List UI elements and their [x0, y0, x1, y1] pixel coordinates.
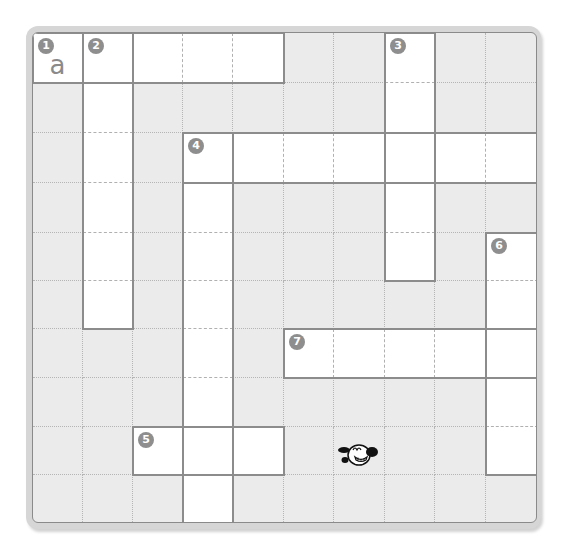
grid-cell-input[interactable] — [83, 133, 133, 183]
grid-cell-block — [284, 427, 334, 475]
grid-cell-block — [284, 83, 334, 133]
clue-number-badge: 2 — [88, 38, 104, 54]
grid-cell-input[interactable] — [486, 281, 537, 329]
grid-cell-input[interactable] — [385, 133, 435, 183]
grid-cell-block — [133, 378, 183, 427]
grid-cell-block — [33, 329, 83, 378]
grid-cell-input[interactable]: 4 — [183, 133, 233, 183]
grid-cell-block — [83, 427, 133, 475]
grid-cell-input[interactable] — [183, 281, 233, 329]
grid-cell-block — [334, 378, 385, 427]
grid-cell-block — [133, 281, 183, 329]
grid-cell-block — [435, 233, 486, 281]
grid-cell-input[interactable]: 3 — [385, 33, 435, 83]
grid-cell-input[interactable]: 2 — [83, 33, 133, 83]
grid-cell-input[interactable] — [183, 378, 233, 427]
grid-cell-block — [233, 183, 284, 233]
grid-cell-input[interactable] — [486, 133, 537, 183]
grid-cell-input[interactable] — [83, 281, 133, 329]
grid-cell-block — [334, 475, 385, 523]
grid-cell-block — [435, 475, 486, 523]
grid-cell-input[interactable] — [486, 427, 537, 475]
grid-cell-input[interactable] — [486, 378, 537, 427]
grid-cell-input[interactable]: 5 — [133, 427, 183, 475]
grid-cell-block — [486, 475, 537, 523]
clue-number-badge: 5 — [138, 432, 154, 448]
grid-cell-block — [233, 83, 284, 133]
grid-cell-block — [385, 281, 435, 329]
grid-cell-block — [284, 183, 334, 233]
grid-cell-block — [284, 233, 334, 281]
grid-cell-block — [385, 475, 435, 523]
grid-cell-block — [133, 133, 183, 183]
grid-cell-input[interactable] — [133, 33, 183, 83]
grid-cell-block — [435, 378, 486, 427]
grid-cell-block — [233, 233, 284, 281]
grid-cell-block — [33, 183, 83, 233]
grid-cell-block — [334, 33, 385, 83]
crossword-grid: 1a234675 — [32, 32, 537, 523]
grid-cell-block — [334, 233, 385, 281]
grid-cell-input[interactable] — [435, 133, 486, 183]
grid-cell-block — [133, 475, 183, 523]
grid-cell-input[interactable] — [385, 183, 435, 233]
grid-cell-input[interactable]: 6 — [486, 233, 537, 281]
grid-cell-block — [435, 183, 486, 233]
grid-cell-block — [83, 475, 133, 523]
grid-cell-input[interactable] — [334, 133, 385, 183]
grid-cell-input[interactable] — [183, 183, 233, 233]
grid-cell-block — [233, 329, 284, 378]
grid-cell-input[interactable] — [183, 33, 233, 83]
grid-cell-block — [33, 427, 83, 475]
clue-number-badge: 7 — [289, 334, 305, 350]
grid-cell-input[interactable] — [83, 233, 133, 281]
grid-cell-block — [334, 183, 385, 233]
grid-cell-block — [83, 378, 133, 427]
grid-cell-block — [33, 475, 83, 523]
grid-cell-input[interactable] — [183, 427, 233, 475]
grid-cell-block — [233, 281, 284, 329]
grid-cell-block — [284, 475, 334, 523]
grid-cell-block — [133, 183, 183, 233]
grid-cell-block — [486, 183, 537, 233]
grid-cell-input[interactable] — [183, 475, 233, 523]
grid-cell-block — [33, 233, 83, 281]
entered-letter: a — [33, 50, 82, 80]
grid-cell-input[interactable] — [385, 329, 435, 378]
grid-cell-block — [284, 281, 334, 329]
grid-cell-block — [334, 83, 385, 133]
grid-cell-input[interactable] — [385, 233, 435, 281]
grid-cell-block — [435, 281, 486, 329]
grid-cell-block — [33, 281, 83, 329]
grid-cell-block — [83, 329, 133, 378]
grid-cell-block — [486, 83, 537, 133]
grid-cell-input[interactable]: 1a — [33, 33, 83, 83]
grid-cell-block — [133, 83, 183, 133]
grid-cell-input[interactable] — [486, 329, 537, 378]
grid-cell-block — [183, 83, 233, 133]
grid-cell-block — [435, 83, 486, 133]
grid-cell-block — [233, 378, 284, 427]
grid-cell-input[interactable] — [334, 329, 385, 378]
grid-cell-input[interactable] — [183, 233, 233, 281]
grid-cell-block — [33, 133, 83, 183]
grid-cell-input[interactable] — [284, 133, 334, 183]
grid-cell-block — [334, 281, 385, 329]
grid-cell-input[interactable]: 7 — [284, 329, 334, 378]
grid-cell-input[interactable] — [183, 329, 233, 378]
grid-cell-input[interactable] — [385, 83, 435, 133]
grid-cell-block — [385, 378, 435, 427]
grid-cell-input[interactable] — [233, 33, 284, 83]
clue-number-badge: 3 — [390, 38, 406, 54]
grid-cell-input[interactable] — [435, 329, 486, 378]
clue-number-badge: 6 — [491, 238, 507, 254]
grid-cell-block — [284, 378, 334, 427]
grid-cell-block — [233, 475, 284, 523]
grid-cell-input[interactable] — [83, 83, 133, 133]
grid-cell-input[interactable] — [83, 183, 133, 233]
grid-cell-input[interactable] — [233, 133, 284, 183]
cartoon-dog-icon — [337, 440, 381, 470]
grid-cell-input[interactable] — [233, 427, 284, 475]
grid-cell-block — [284, 33, 334, 83]
grid-cell-block — [133, 233, 183, 281]
